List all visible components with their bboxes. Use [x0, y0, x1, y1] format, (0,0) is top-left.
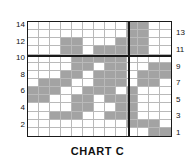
grid-cell: [160, 95, 171, 103]
grid-cell: [83, 103, 94, 111]
grid-cell: [105, 79, 116, 87]
grid-cell: [28, 30, 39, 38]
grid-cell: [160, 46, 171, 54]
grid-cell: [61, 55, 72, 63]
grid-cell: [61, 30, 72, 38]
grid-cell: [94, 55, 105, 63]
grid-cell: [39, 128, 50, 136]
grid-cell: [61, 103, 72, 111]
grid-cell: [83, 120, 94, 128]
grid-cell: [105, 38, 116, 46]
grid-cell: [149, 55, 160, 63]
grid-cell: [160, 79, 171, 87]
grid-cell: [94, 30, 105, 38]
grid-cell: [94, 38, 105, 46]
grid-cell: [160, 120, 171, 128]
grid-cell: [83, 128, 94, 136]
grid-cell: [61, 128, 72, 136]
grid-cell: [116, 87, 127, 95]
grid-cell: [105, 46, 116, 54]
grid-cell: [28, 55, 39, 63]
grid-cell: [138, 112, 149, 120]
grid-cell: [39, 87, 50, 95]
grid-cell: [160, 128, 171, 136]
grid-cell: [39, 103, 50, 111]
grid-cell: [149, 46, 160, 54]
grid-cell: [39, 63, 50, 71]
grid-cell: [50, 63, 61, 71]
grid-cell: [28, 63, 39, 71]
grid-cell: [28, 87, 39, 95]
y-axis-right-tick: 3: [176, 112, 180, 120]
grid-cell: [105, 120, 116, 128]
grid-cell: [138, 103, 149, 111]
grid-cell: [94, 120, 105, 128]
grid-cell: [149, 103, 160, 111]
grid-cell: [94, 128, 105, 136]
grid-cell: [116, 79, 127, 87]
grid-cell: [39, 55, 50, 63]
grid-cell: [149, 30, 160, 38]
chart-title: CHART C: [0, 145, 195, 157]
grid-cell: [94, 87, 105, 95]
grid-cell: [72, 79, 83, 87]
grid-cell: [39, 38, 50, 46]
grid-cell: [138, 38, 149, 46]
grid-cell: [127, 95, 138, 103]
grid-cell: [116, 95, 127, 103]
grid-cell: [127, 63, 138, 71]
grid-cell: [160, 112, 171, 120]
grid-cell: [72, 103, 83, 111]
chart-c-container: 1412108642 131197531 CHART C: [0, 0, 195, 167]
grid-cell: [138, 120, 149, 128]
grid-cell: [105, 55, 116, 63]
grid-cell: [61, 87, 72, 95]
grid-cell: [50, 71, 61, 79]
grid-cell: [72, 30, 83, 38]
grid-cell: [72, 71, 83, 79]
y-axis-right-tick: 1: [176, 129, 180, 137]
grid-cell: [39, 79, 50, 87]
grid-cell: [50, 38, 61, 46]
grid-cell: [61, 71, 72, 79]
y-axis-right-tick: 7: [176, 79, 180, 87]
grid-cell: [94, 71, 105, 79]
chart-plot-area: [27, 21, 172, 137]
chart-grid: [28, 22, 171, 136]
grid-cell: [72, 128, 83, 136]
grid-cell: [61, 46, 72, 54]
grid-cell: [61, 63, 72, 71]
y-axis-right-tick: 5: [176, 96, 180, 104]
grid-cell: [28, 46, 39, 54]
grid-cell: [127, 112, 138, 120]
grid-cell: [28, 103, 39, 111]
y-axis-left-tick: 4: [21, 104, 25, 112]
grid-cell: [83, 87, 94, 95]
grid-cell: [72, 95, 83, 103]
grid-cell: [116, 120, 127, 128]
y-axis-right-tick: 9: [176, 63, 180, 71]
grid-cell: [116, 128, 127, 136]
grid-cell: [94, 46, 105, 54]
grid-cell: [149, 87, 160, 95]
grid-cell: [127, 22, 138, 30]
grid-cell: [83, 22, 94, 30]
grid-cell: [50, 22, 61, 30]
grid-cell: [127, 30, 138, 38]
y-axis-left-tick: 10: [16, 54, 25, 62]
grid-cell: [61, 79, 72, 87]
grid-cell: [39, 71, 50, 79]
grid-cell: [105, 87, 116, 95]
grid-cell: [138, 95, 149, 103]
y-axis-left-tick: 2: [21, 121, 25, 129]
grid-cell: [105, 95, 116, 103]
grid-cell: [39, 22, 50, 30]
grid-cell: [149, 95, 160, 103]
grid-cell: [160, 87, 171, 95]
grid-cell: [83, 63, 94, 71]
grid-cell: [72, 22, 83, 30]
grid-cell: [127, 46, 138, 54]
grid-cell: [28, 38, 39, 46]
grid-cell: [94, 63, 105, 71]
grid-cell: [83, 30, 94, 38]
